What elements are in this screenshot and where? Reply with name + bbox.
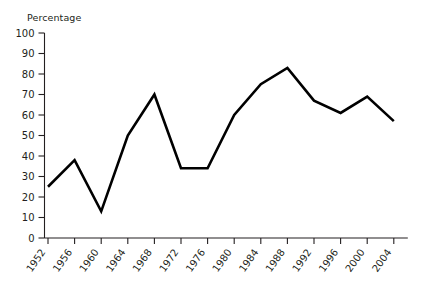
line-chart: Percentage 1009080706050403020100 195219…	[0, 0, 421, 298]
y-axis-tick-labels: 1009080706050403020100	[15, 28, 34, 244]
y-tick-label: 20	[22, 192, 35, 203]
y-tick-label: 60	[22, 110, 35, 121]
y-tick-label: 0	[28, 233, 34, 244]
x-axis-tick-labels: 1952195619601964196819721976198019841988…	[24, 247, 393, 274]
x-tick-label: 1968	[130, 247, 154, 274]
y-tick-label: 90	[22, 48, 35, 59]
x-tick-label: 1980	[210, 247, 234, 274]
x-tick-label: 1988	[263, 247, 287, 274]
x-tick-label: 1996	[317, 247, 341, 274]
x-tick-label: 1952	[24, 247, 48, 274]
x-tick-label: 1976	[184, 247, 208, 274]
x-axis-tick-marks	[48, 238, 394, 244]
x-tick-label: 1972	[157, 247, 181, 274]
data-series-line	[48, 68, 394, 212]
chart-plot-area: 1009080706050403020100 19521956196019641…	[0, 0, 421, 298]
x-tick-label: 1956	[51, 247, 75, 274]
y-tick-label: 80	[22, 69, 35, 80]
x-tick-label: 1960	[77, 247, 101, 274]
y-tick-label: 30	[22, 171, 35, 182]
y-tick-label: 50	[22, 130, 35, 141]
y-axis-tick-marks	[39, 33, 45, 238]
x-tick-label: 2004	[370, 247, 394, 274]
x-tick-label: 2000	[343, 247, 367, 274]
y-tick-label: 40	[22, 151, 35, 162]
x-tick-label: 1964	[104, 247, 128, 274]
x-tick-label: 1992	[290, 247, 314, 274]
y-tick-label: 70	[22, 89, 35, 100]
y-tick-label: 100	[15, 28, 34, 39]
y-tick-label: 10	[22, 212, 35, 223]
x-tick-label: 1984	[237, 247, 261, 274]
